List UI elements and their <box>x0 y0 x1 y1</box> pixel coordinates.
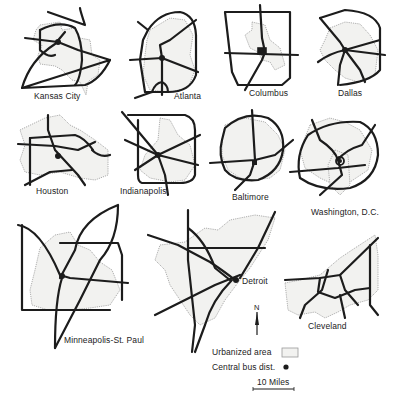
legend-cbd-dot <box>283 364 288 369</box>
map-houston <box>18 115 110 185</box>
label-detroit: Detroit <box>242 276 268 286</box>
label-atlanta: Atlanta <box>174 91 201 101</box>
city-maps-diagram <box>0 0 395 397</box>
label-houston: Houston <box>36 186 68 196</box>
map-kansas-city <box>22 8 110 95</box>
label-cleveland: Cleveland <box>308 321 347 331</box>
legend-urbanized-label: Urbanized area <box>212 347 272 357</box>
label-north: N <box>254 303 260 312</box>
map-atlanta <box>130 12 198 98</box>
label-washington-dc: Washington, D.C. <box>311 207 379 217</box>
map-washington-dc <box>290 118 378 195</box>
north-arrow <box>255 312 259 335</box>
legend-urbanized-swatch <box>282 348 298 357</box>
scale-label: 10 Miles <box>257 377 289 387</box>
legend-cbd-label: Central bus dist. <box>212 362 275 372</box>
map-minneapolis-st-paul <box>18 205 128 348</box>
map-baltimore <box>210 110 293 190</box>
map-dallas <box>318 10 385 85</box>
map-cleveland <box>285 235 378 318</box>
label-dallas: Dallas <box>338 88 362 98</box>
label-indianapolis: Indianapolis <box>120 186 167 196</box>
label-kansas-city: Kansas City <box>34 91 80 101</box>
label-columbus: Columbus <box>249 88 288 98</box>
map-indianapolis <box>122 112 200 195</box>
label-baltimore: Baltimore <box>232 192 269 202</box>
map-columbus <box>225 5 298 90</box>
label-minneapolis-st-paul: Minneapolis-St. Paul <box>64 335 144 345</box>
